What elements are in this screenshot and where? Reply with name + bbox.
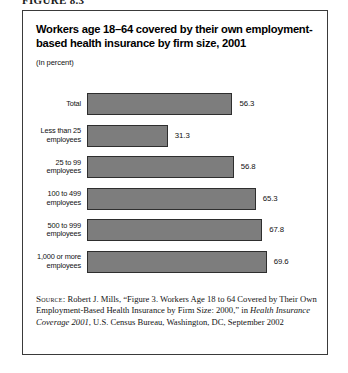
figure-number-label: FIGURE 8.3 <box>22 0 84 6</box>
bar-category-label: 25 to 99 employees <box>23 159 81 176</box>
bar-category-label: 500 to 999 employees <box>23 222 81 239</box>
bar <box>87 219 262 241</box>
bar-chart-plot-area: Total56.3Less than 25 employees31.325 to… <box>23 93 329 283</box>
figure-container: Workers age 18–64 covered by their own e… <box>22 10 328 355</box>
bar-category-label: 100 to 499 employees <box>23 190 81 207</box>
bar-value-label: 67.8 <box>269 225 284 234</box>
chart-title: Workers age 18–64 covered by their own e… <box>36 23 316 50</box>
title-block: Workers age 18–64 covered by their own e… <box>36 23 316 67</box>
bar-track: 67.8 <box>87 219 329 241</box>
bar-row: Total56.3 <box>23 93 329 115</box>
source-kicker: Source: <box>36 294 65 304</box>
bar <box>87 188 256 210</box>
source-text-after: , U.S. Census Bureau, Washington, DC, Se… <box>89 317 284 327</box>
bar-value-label: 65.3 <box>263 194 278 203</box>
bar <box>87 125 168 147</box>
bar-category-label: 1,000 or more employees <box>23 253 81 270</box>
bar-track: 56.8 <box>87 156 329 178</box>
bar-row: Less than 25 employees31.3 <box>23 125 329 147</box>
bar-value-label: 56.8 <box>241 162 256 171</box>
bar-track: 56.3 <box>87 93 329 115</box>
bar-track: 31.3 <box>87 125 329 147</box>
bar <box>87 156 234 178</box>
bar-row: 25 to 99 employees56.8 <box>23 156 329 178</box>
source-note: Source: Robert J. Mills, “Figure 3. Work… <box>36 294 319 328</box>
bar-category-label: Less than 25 employees <box>23 127 81 144</box>
bar-value-label: 69.6 <box>274 257 289 266</box>
bar-category-label: Total <box>23 100 81 109</box>
bar-row: 500 to 999 employees67.8 <box>23 219 329 241</box>
bar <box>87 251 267 273</box>
bar-track: 65.3 <box>87 188 329 210</box>
bar <box>87 93 232 115</box>
bar-value-label: 31.3 <box>175 131 190 140</box>
bar-track: 69.6 <box>87 251 329 273</box>
bar-row: 1,000 or more employees69.6 <box>23 251 329 273</box>
chart-subtitle-units: (In percent) <box>36 58 316 67</box>
bar-row: 100 to 499 employees65.3 <box>23 188 329 210</box>
bar-value-label: 56.3 <box>239 99 254 108</box>
